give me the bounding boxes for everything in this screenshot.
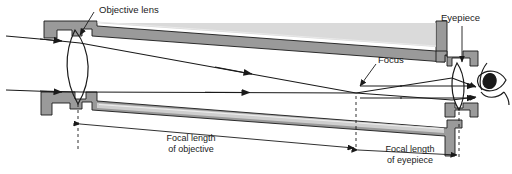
upper-refracted-arrow bbox=[215, 67, 252, 74]
observer-eye bbox=[478, 63, 510, 105]
objective-lens-label: Objective lens bbox=[99, 4, 159, 15]
post-focus-lower-ray bbox=[356, 93, 452, 100]
focus-label: Focus bbox=[378, 54, 404, 65]
focal-length-eyepiece-label-line1: Focal length bbox=[385, 144, 434, 154]
focus-leader bbox=[360, 64, 376, 86]
telescope-tube bbox=[41, 21, 478, 156]
telescope-diagram-canvas: Objective lens Focus Eyepiece Focal leng… bbox=[0, 0, 512, 174]
focal-length-eyepiece-label-line2: of eyepiece bbox=[387, 155, 433, 165]
label-backdrops bbox=[148, 132, 234, 155]
upper-incoming-ray-seg2 bbox=[40, 39, 80, 43]
eyepiece-label: Eyepiece bbox=[441, 12, 480, 23]
